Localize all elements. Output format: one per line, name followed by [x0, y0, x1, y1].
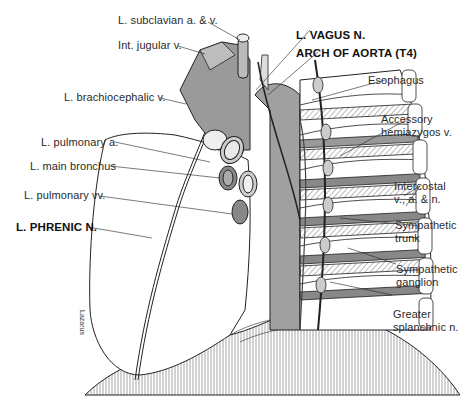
label-l-vagus-nerve: L. VAGUS N. — [296, 29, 365, 41]
label-l-pulmonary-vv: L. pulmonary vv. — [24, 189, 105, 201]
label-sympathetic-ganglion-2: ganglion — [396, 276, 438, 288]
label-l-brachiocephalic: L. brachiocephalic v. — [64, 91, 166, 103]
artist-signature: Lazarus — [79, 310, 86, 335]
label-intercostal-1: Intercostal — [394, 180, 446, 192]
label-greater-splanchnic-1: Greater — [393, 308, 431, 320]
label-l-main-bronchus: L. main bronchus — [30, 160, 116, 172]
label-l-pulmonary-a: L. pulmonary a. — [41, 136, 118, 148]
label-greater-splanchnic-2: splanchnic n. — [393, 321, 459, 333]
label-sympathetic-ganglion-1: Sympathetic — [396, 263, 458, 275]
label-intercostal-2: v., a. & n. — [394, 193, 441, 205]
label-accessory-hemiazygos-2: hemiazygos v. — [381, 126, 452, 138]
label-esophagus: Esophagus — [368, 74, 424, 86]
label-sympathetic-trunk-1: Sympathetic — [395, 219, 457, 231]
label-int-jugular: Int. jugular v. — [118, 39, 182, 51]
subclavian-vessels — [237, 34, 249, 78]
anatomy-illustration: L. subclavian a. & v. Int. jugular v. L.… — [0, 0, 471, 402]
label-accessory-hemiazygos-1: Accessory — [381, 113, 433, 125]
label-sympathetic-trunk-2: trunk — [395, 232, 420, 244]
label-l-subclavian: L. subclavian a. & v. — [118, 14, 218, 26]
label-arch-of-aorta: ARCH OF AORTA (T4) — [296, 47, 417, 59]
label-l-phrenic-nerve: L. PHRENIC N. — [16, 221, 97, 233]
